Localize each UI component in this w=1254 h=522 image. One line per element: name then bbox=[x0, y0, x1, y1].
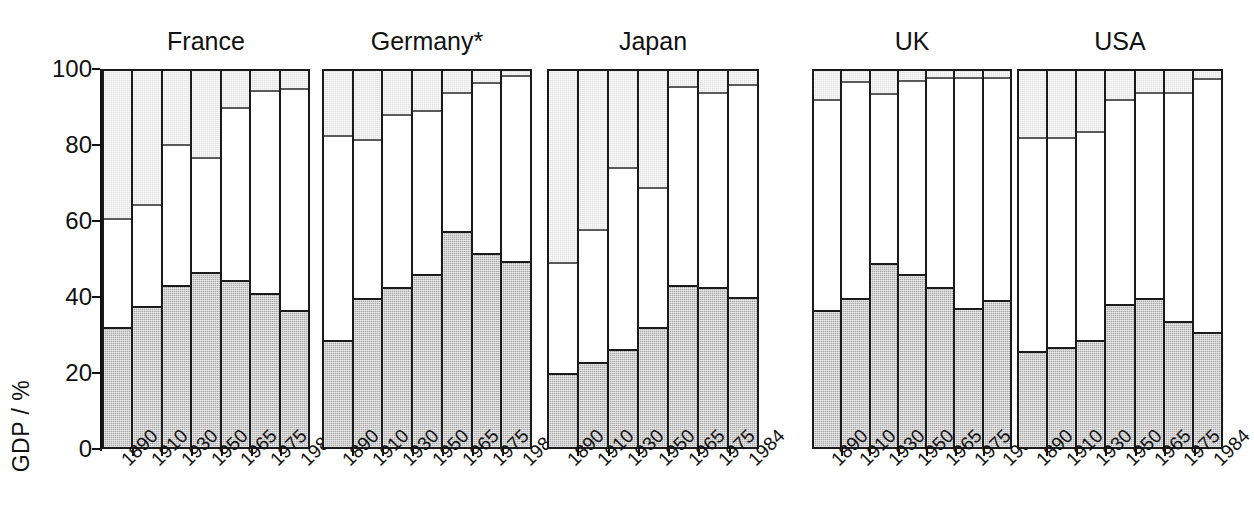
segment-industry bbox=[502, 77, 530, 261]
stacked-bar[interactable] bbox=[984, 71, 1010, 447]
plot-area-uk bbox=[812, 69, 1012, 449]
segment-agriculture bbox=[814, 310, 840, 447]
segment-agriculture bbox=[984, 300, 1010, 447]
texture-overlay bbox=[549, 71, 577, 262]
x-tick-mark bbox=[442, 449, 444, 456]
texture-overlay bbox=[699, 71, 727, 92]
stacked-bar[interactable] bbox=[549, 71, 579, 447]
segment-agriculture bbox=[502, 261, 530, 447]
stacked-bar[interactable] bbox=[1136, 71, 1165, 447]
x-tick-mark bbox=[577, 449, 579, 456]
x-tick-mark bbox=[132, 449, 134, 456]
stacked-bar[interactable] bbox=[842, 71, 870, 447]
texture-overlay bbox=[443, 71, 471, 92]
segment-industry bbox=[383, 116, 411, 287]
y-tick-mark-40 bbox=[92, 296, 100, 298]
texture-overlay bbox=[984, 71, 1010, 77]
stacked-bar[interactable] bbox=[281, 71, 308, 447]
segment-agriculture bbox=[871, 263, 897, 447]
stacked-bar[interactable] bbox=[163, 71, 192, 447]
panel-usa: USA1890191019301950196519751984 bbox=[1017, 69, 1223, 449]
stacked-bar[interactable] bbox=[729, 71, 757, 447]
segment-agriculture bbox=[669, 285, 697, 447]
stacked-bar[interactable] bbox=[927, 71, 955, 447]
segment-services bbox=[192, 71, 219, 159]
stacked-bar[interactable] bbox=[699, 71, 729, 447]
stacked-bar[interactable] bbox=[354, 71, 384, 447]
stacked-bar[interactable] bbox=[104, 71, 133, 447]
segment-services bbox=[133, 71, 160, 206]
segment-industry bbox=[669, 88, 697, 285]
stacked-bar[interactable] bbox=[133, 71, 162, 447]
stacked-bar[interactable] bbox=[413, 71, 443, 447]
segment-services bbox=[354, 71, 382, 141]
segment-services bbox=[222, 71, 249, 109]
texture-overlay bbox=[473, 255, 501, 447]
stacked-bar[interactable] bbox=[955, 71, 983, 447]
segment-agriculture bbox=[443, 231, 471, 447]
texture-overlay bbox=[383, 71, 411, 114]
stacked-bar[interactable] bbox=[251, 71, 280, 447]
x-tick-mark bbox=[472, 449, 474, 456]
segment-industry bbox=[251, 92, 278, 293]
segment-services bbox=[984, 71, 1010, 79]
segment-agriculture bbox=[104, 327, 131, 447]
texture-overlay bbox=[1019, 71, 1046, 137]
y-tick-mark-100 bbox=[92, 68, 100, 70]
x-tick-mark bbox=[1076, 449, 1078, 456]
segment-services bbox=[669, 71, 697, 88]
panel-title-usa: USA bbox=[1017, 27, 1223, 56]
segment-agriculture bbox=[549, 373, 577, 447]
texture-overlay bbox=[1194, 71, 1221, 78]
panel-title-uk: UK bbox=[812, 27, 1012, 56]
stacked-bar[interactable] bbox=[899, 71, 927, 447]
x-tick-mark bbox=[221, 449, 223, 456]
stacked-bar[interactable] bbox=[324, 71, 354, 447]
texture-overlay bbox=[1106, 71, 1133, 99]
texture-overlay bbox=[251, 71, 278, 90]
panel-uk: UK1890191019301950196519751984 bbox=[812, 69, 1012, 449]
texture-overlay bbox=[1077, 71, 1104, 131]
x-tick-mark bbox=[1164, 449, 1166, 456]
stacked-bar[interactable] bbox=[814, 71, 842, 447]
x-tick-mark bbox=[729, 449, 731, 456]
segment-industry bbox=[163, 146, 190, 285]
segment-industry bbox=[579, 231, 607, 363]
texture-overlay bbox=[669, 71, 697, 86]
texture-overlay bbox=[1136, 71, 1163, 92]
segment-industry bbox=[927, 79, 953, 288]
stacked-bar[interactable] bbox=[443, 71, 473, 447]
stacked-bar[interactable] bbox=[639, 71, 669, 447]
panel-france: France1890191019301950196519751984 bbox=[102, 69, 310, 449]
y-tick-label-80: 80 bbox=[65, 131, 92, 159]
stacked-bar[interactable] bbox=[192, 71, 221, 447]
stacked-bar[interactable] bbox=[1077, 71, 1106, 447]
stacked-bar[interactable] bbox=[579, 71, 609, 447]
stacked-bar[interactable] bbox=[609, 71, 639, 447]
stacked-bar[interactable] bbox=[1019, 71, 1048, 447]
segment-industry bbox=[549, 264, 577, 373]
texture-overlay bbox=[814, 71, 840, 99]
stacked-bar[interactable] bbox=[1165, 71, 1194, 447]
y-tick-mark-80 bbox=[92, 144, 100, 146]
stacked-bar[interactable] bbox=[1106, 71, 1135, 447]
stacked-bar[interactable] bbox=[871, 71, 899, 447]
x-tick-mark bbox=[191, 449, 193, 456]
segment-agriculture bbox=[473, 253, 501, 447]
stacked-bar[interactable] bbox=[1048, 71, 1077, 447]
stacked-bar[interactable] bbox=[669, 71, 699, 447]
stacked-bar[interactable] bbox=[473, 71, 503, 447]
x-tick-mark bbox=[1046, 449, 1048, 456]
segment-services bbox=[413, 71, 441, 112]
segment-services bbox=[163, 71, 190, 146]
stacked-bar[interactable] bbox=[502, 71, 530, 447]
texture-overlay bbox=[502, 71, 530, 75]
segment-services bbox=[1048, 71, 1075, 139]
stacked-bar[interactable] bbox=[1194, 71, 1221, 447]
x-tick-mark bbox=[382, 449, 384, 456]
stacked-bar[interactable] bbox=[383, 71, 413, 447]
stacked-bar[interactable] bbox=[222, 71, 251, 447]
segment-agriculture bbox=[899, 274, 925, 447]
x-tick-mark bbox=[502, 449, 504, 456]
texture-overlay bbox=[1165, 71, 1192, 92]
